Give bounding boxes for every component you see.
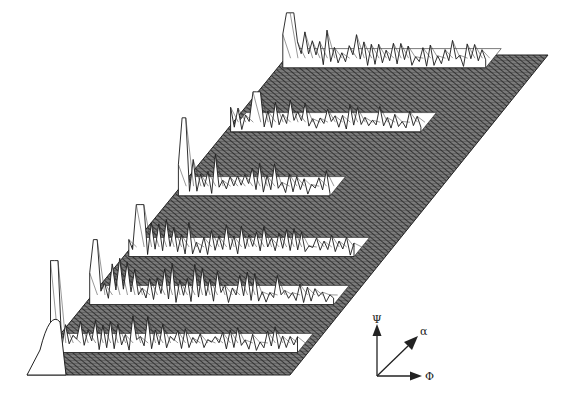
axes-indicator: Ψ α Φ [372,313,434,383]
arrow-right-icon [410,372,422,381]
axis-label-alpha: α [420,325,428,338]
surface-plot-figure: Ψ α Φ [0,0,569,404]
ridge-spikes [283,13,486,68]
axis-label-phi: Φ [425,370,434,383]
corner-bump [27,319,66,375]
base-plane [27,55,548,375]
axis-label-psi: Ψ [372,313,382,326]
